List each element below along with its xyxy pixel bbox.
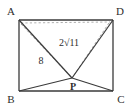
point-label-P: P [70, 81, 76, 92]
geometry-figure: A D B C P 8 2√11 [0, 0, 133, 109]
vertex-label-A: A [7, 5, 15, 17]
length-label-8: 8 [39, 55, 44, 66]
vertex-label-B: B [7, 93, 14, 105]
length-label-2sqrt11: 2√11 [59, 37, 79, 48]
vertex-label-D: D [116, 5, 124, 17]
vertex-label-C: C [117, 93, 124, 105]
